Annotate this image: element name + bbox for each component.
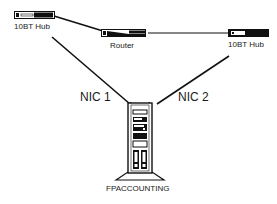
nic-2-label: NIC 2 xyxy=(178,90,209,104)
router-label: Router xyxy=(110,41,134,50)
hub-2-icon[interactable] xyxy=(228,29,270,38)
router-icon[interactable] xyxy=(101,29,147,38)
server-tower-icon[interactable] xyxy=(112,102,168,182)
hub-1-icon[interactable] xyxy=(14,11,56,20)
hub-2-label: 10BT Hub xyxy=(228,40,264,49)
link-hub1-router xyxy=(54,16,103,31)
nic-1-label: NIC 1 xyxy=(80,90,111,104)
hub-1-label: 10BT Hub xyxy=(14,22,50,31)
server-label: FPACCOUNTING xyxy=(106,184,169,193)
